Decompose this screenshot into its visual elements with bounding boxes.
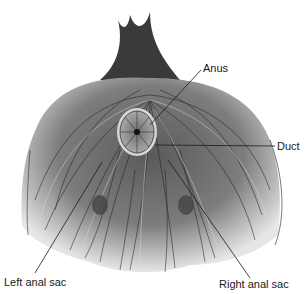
tail (100, 12, 180, 80)
anus-shape (117, 108, 157, 156)
label-right-anal-sac: Right anal sac (219, 278, 289, 290)
rump (22, 77, 280, 272)
label-anus: Anus (203, 62, 228, 74)
perianal-illustration (0, 0, 307, 294)
label-duct: Duct (277, 140, 300, 152)
label-left-anal-sac: Left anal sac (4, 276, 66, 288)
right-anal-sac-shape (178, 195, 194, 215)
left-anal-sac-shape (92, 195, 108, 215)
